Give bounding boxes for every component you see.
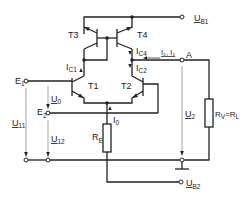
label-ic1: IC1 (66, 62, 77, 73)
label-t3: T3 (68, 30, 79, 40)
label-ub2: UB2 (186, 178, 201, 190)
label-t2: T2 (121, 81, 132, 91)
terminal-ub2[interactable] (179, 180, 183, 184)
circuit-diagram: T3 T4 T1 T2 UB1 UB2 E1 E2 A IC1 IC4 IC2 … (0, 0, 249, 200)
label-ub1: UB1 (194, 13, 209, 25)
label-re: RE (92, 132, 104, 144)
label-ic4: IC4 (136, 46, 147, 57)
terminal-a[interactable] (180, 58, 184, 62)
terminal-ub1[interactable] (180, 15, 184, 19)
label-u2: U2 (185, 109, 196, 120)
label-ic2: IC2 (136, 63, 147, 74)
label-u0: U0 (51, 94, 62, 105)
label-t1: T1 (88, 81, 99, 91)
label-i2: I₂, I₂ (161, 48, 175, 57)
transistor-t3 (84, 27, 97, 60)
label-u12: U12 (51, 134, 65, 145)
transistor-t2 (107, 60, 158, 113)
label-u11: U11 (12, 118, 26, 129)
label-rv: RV=RL (215, 110, 240, 120)
transistor-t4 (117, 27, 132, 60)
label-i0: I0 (113, 115, 120, 126)
resistor-rv (205, 99, 213, 127)
label-e2: E2 (37, 107, 47, 119)
supply-rail-ub1 (84, 15, 184, 34)
label-t4: T4 (137, 30, 148, 40)
label-a: A (186, 50, 192, 60)
resistor-re (103, 124, 111, 152)
label-e1: E1 (15, 76, 25, 87)
